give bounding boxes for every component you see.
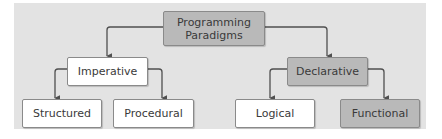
node-label: Imperative (78, 65, 138, 78)
node-label: Declarative (296, 65, 359, 78)
node-procedural: Procedural (113, 99, 194, 128)
node-label: Functional (352, 107, 409, 120)
node-label: Structured (33, 107, 91, 120)
node-label: Programming Paradigms (177, 16, 251, 42)
node-programming-paradigms: Programming Paradigms (163, 11, 265, 46)
node-structured: Structured (22, 99, 102, 128)
node-label: Logical (256, 107, 295, 120)
node-declarative: Declarative (287, 57, 368, 86)
node-imperative: Imperative (67, 57, 148, 86)
node-functional: Functional (340, 99, 420, 128)
node-label: Procedural (124, 107, 183, 120)
node-logical: Logical (235, 99, 315, 128)
